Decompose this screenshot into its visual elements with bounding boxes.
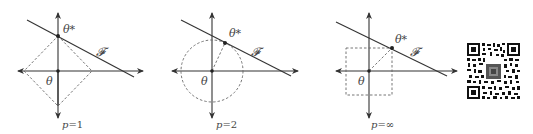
pinf-optimum-point [390,46,394,50]
pinf-origin-point [367,69,371,73]
pinf-feasible-set-label: 𝓕 [410,46,419,58]
panel-p1 [18,13,143,118]
qr-code [466,42,521,100]
pinf-optimum-label: θ* [395,34,407,45]
p2-origin-label: θ [201,76,208,87]
p1-feasible-set-label: 𝓕 [96,46,105,58]
pinf-diagonal-to-optimum [369,48,392,71]
p1-origin-point [56,69,60,73]
p2-origin-point [210,69,214,73]
pinf-origin-label: θ [358,76,365,87]
p1-caption: p=1 [62,120,83,130]
p1-feasible-line [27,20,134,77]
p1-optimum-label: θ* [63,24,75,35]
p2-caption: p=2 [216,120,237,130]
p2-optimum-label: θ* [229,28,241,39]
pinf-caption: p=∞ [371,120,394,130]
diagram-canvas [0,0,533,134]
p2-optimum-point [223,41,227,45]
p1-optimum-point [56,34,60,38]
p1-origin-label: θ [46,76,53,87]
p2-radius-to-optimum [212,43,225,71]
panel-pinf [336,13,457,118]
p2-feasible-set-label: 𝓕 [251,46,260,58]
